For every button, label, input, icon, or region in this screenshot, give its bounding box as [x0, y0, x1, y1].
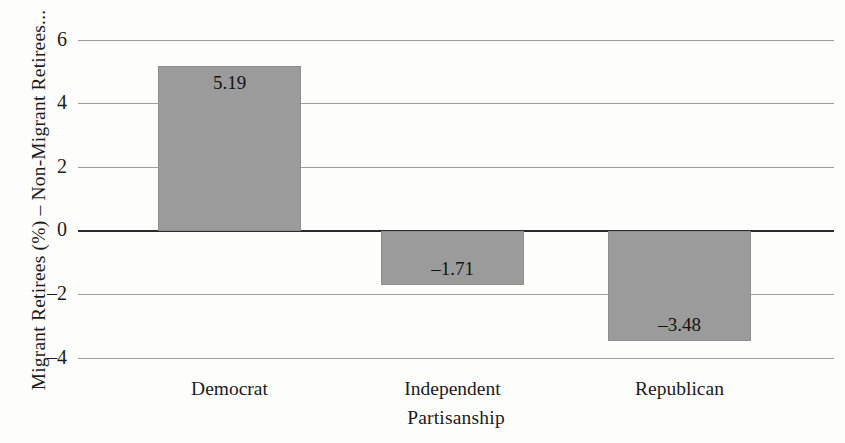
bar-democrat[interactable]: 5.19	[158, 66, 301, 231]
bar-series: 5.19 –1.71 –3.48	[78, 18, 834, 370]
plot-area: 6 4 2 0 –2 –4 5.19 –1.71	[78, 18, 834, 370]
x-axis-title: Partisanship	[78, 407, 834, 429]
y-tick-label-6: 6	[57, 28, 67, 51]
bar-republican[interactable]: –3.48	[608, 231, 751, 341]
x-category-label-democrat: Democrat	[158, 378, 301, 400]
y-tick-label-minus-2: –2	[47, 282, 67, 305]
x-axis-category-labels: Democrat Independent Republican	[78, 378, 834, 408]
x-category-label-independent: Independent	[381, 378, 524, 400]
y-tick-label-4: 4	[57, 91, 67, 114]
bar-independent[interactable]: –1.71	[381, 231, 524, 285]
bar-value-independent: –1.71	[382, 258, 523, 280]
y-tick-label-0: 0	[57, 218, 67, 241]
y-tick-label-minus-4: –4	[47, 346, 67, 369]
bar-value-democrat: 5.19	[159, 72, 300, 94]
y-tick-label-2: 2	[57, 155, 67, 178]
bar-value-republican: –3.48	[609, 314, 750, 336]
bar-chart-figure: Migrant Retirees (%) – Non-Migrant Retir…	[0, 0, 845, 443]
x-category-label-republican: Republican	[608, 378, 751, 400]
